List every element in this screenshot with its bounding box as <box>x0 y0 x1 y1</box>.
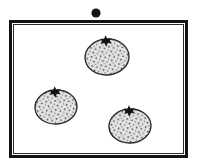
figure-root: Three stippled round fruits inside a rec… <box>0 0 198 166</box>
dot-above-box <box>91 8 100 17</box>
dot-above-box-circle <box>91 8 100 17</box>
diagram-canvas <box>0 0 198 166</box>
